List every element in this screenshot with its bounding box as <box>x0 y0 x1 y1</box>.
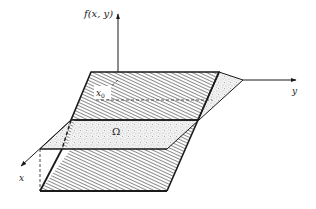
z-axis-label: f(x, y) <box>83 8 113 19</box>
function-plane-diagram: f(x, y) y x x0 Ω <box>0 0 316 209</box>
x0-label-subscript: 0 <box>101 92 105 99</box>
upper-plane-surface <box>71 72 219 120</box>
y-axis-label: y <box>291 86 298 96</box>
omega-label: Ω <box>112 126 120 137</box>
x-axis-label: x <box>19 173 24 183</box>
